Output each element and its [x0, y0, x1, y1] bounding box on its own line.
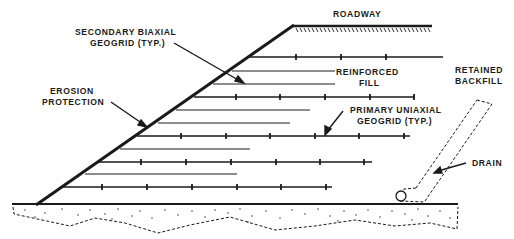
drain-label: DRAIN — [472, 158, 502, 168]
erosion-protection-label-line2: PROTECTION — [42, 97, 104, 107]
reinforced-fill-label-line2: FILL — [359, 78, 380, 88]
roadway-surface — [293, 26, 432, 32]
secondary-geogrid-layers — [85, 71, 335, 174]
primary-geogrid-label-line1: PRIMARY UNIAXIAL — [350, 105, 442, 115]
foundation-ground — [12, 204, 458, 233]
retained-backfill-label-line2: BACKFILL — [455, 76, 503, 86]
primary-geogrid-label-line2: GEOGRID (TYP.) — [357, 116, 432, 126]
retained-backfill-label-line1: RETAINED — [455, 65, 503, 75]
secondary-geogrid-label-line1: SECONDARY BIAXIAL — [75, 27, 176, 37]
reinforced-slope-diagram: ROADWAY SECONDARY BIAXIAL GEOGRID (TYP.)… — [0, 0, 514, 239]
roadway-label: ROADWAY — [333, 9, 381, 19]
slope-face — [36, 25, 294, 205]
reinforced-fill-label-line1: REINFORCED — [336, 67, 399, 77]
drain-pipe — [396, 191, 406, 201]
secondary-geogrid-label-line2: GEOGRID (TYP.) — [90, 38, 165, 48]
erosion-protection-label-line1: EROSION — [50, 86, 94, 96]
